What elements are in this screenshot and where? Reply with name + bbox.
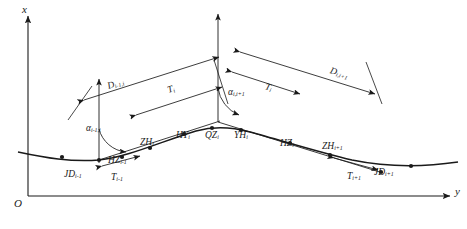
dim-D-prev-i	[84, 57, 219, 100]
marker-pt-right	[409, 164, 413, 168]
dimension-label-T-prev: Ti-1	[111, 173, 123, 183]
marker-pt-left	[60, 155, 64, 159]
y-axis-label: y	[455, 186, 460, 197]
dimension-label-T-next: Ti+1	[347, 172, 361, 182]
tick-d-next-end	[366, 62, 382, 104]
dim-T-i-left	[136, 87, 222, 115]
point-label-QZ-i: QZi	[205, 131, 219, 141]
marker-JD-prev	[97, 158, 101, 162]
tick-d-prev-start	[68, 86, 92, 120]
dim-D-i-next	[240, 52, 375, 94]
arc-alpha-prev-i	[99, 129, 126, 152]
point-label-HZ-i: HZi	[280, 139, 294, 149]
dim-T-next	[334, 158, 378, 170]
origin-label: O	[14, 198, 22, 209]
point-label-JD-prev: JDi-1	[64, 170, 82, 180]
marker-ZH-next	[328, 153, 332, 157]
alignment-diagram-svg	[0, 0, 467, 229]
angle-label-alpha-i-next: αi,i+1	[228, 88, 245, 98]
point-label-JD-next: JDi+1	[374, 168, 394, 178]
point-label-ZH-i: ZHi	[140, 138, 154, 148]
point-label-YH-i: YHi	[234, 131, 248, 141]
angle-label-alpha-prev-i: αi-1,i	[86, 124, 101, 134]
point-label-HZ-prev: HZi-1	[108, 156, 127, 166]
point-label-ZH-next: ZHi+1	[322, 142, 343, 152]
figure-canvas: x y O JDi-1 HZi-1 ZHi HYi QZi YHi HZi ZH…	[0, 0, 467, 229]
x-axis-label: x	[22, 4, 27, 15]
point-label-HY-i: HYi	[176, 131, 190, 141]
